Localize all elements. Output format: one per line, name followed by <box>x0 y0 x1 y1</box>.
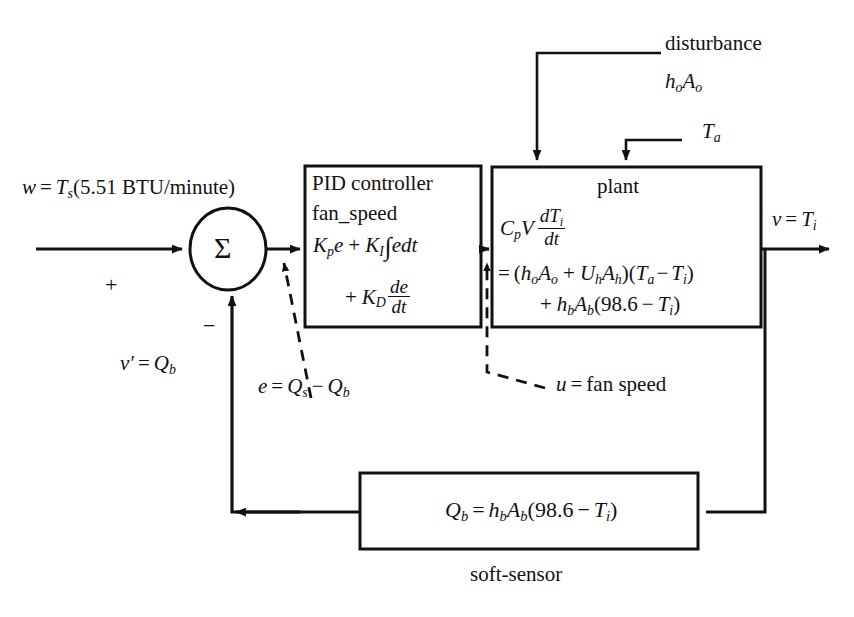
output-equals: = <box>781 207 801 231</box>
pid-kd: K <box>357 285 376 309</box>
plant-minus-2: − <box>638 292 658 316</box>
reference-value: (5.51 BTU/minute) <box>73 175 235 199</box>
pid-dt: dt <box>388 297 410 316</box>
reference-equals: = <box>36 175 56 199</box>
sensor-paren-open: ( <box>528 497 535 522</box>
reference-symbol: T <box>56 175 68 199</box>
ambient-T-sub: a <box>714 130 721 145</box>
pid-controller-title: PID controller <box>312 172 433 196</box>
pid-e-term: e <box>334 233 343 257</box>
pid-ki: K <box>365 233 379 257</box>
plant-Ti-2: T <box>658 292 670 316</box>
plant-Ao: A <box>538 261 551 285</box>
error-Qb-sub: b <box>343 385 350 400</box>
pid-derivative-fraction: de dt <box>388 277 410 317</box>
pid-kp-sub: p <box>327 244 334 259</box>
plant-const: 98.6 <box>601 292 638 316</box>
control-text: fan speed <box>586 372 666 396</box>
plant-ho: h <box>521 261 532 285</box>
control-block-diagram: w=Ts(5.51 BTU/minute) Σ + − PID controll… <box>0 0 854 617</box>
output-T-sub: i <box>813 218 817 233</box>
soft-sensor-equation: Qb=hbAb(98.6−Ti) <box>445 498 617 524</box>
plant-eq-equals: = <box>498 261 510 285</box>
plant-Ta: T <box>636 261 648 285</box>
plant-Ab-sub: b <box>587 303 594 318</box>
output-feedback-tap <box>706 249 765 512</box>
control-signal-annotation: u=fan speed <box>556 373 666 397</box>
ambient-temperature-line <box>626 140 682 160</box>
pid-equation-line-2: +KD de dt <box>345 277 410 317</box>
plant-equation-line-1: CpV dTi dt <box>500 206 565 249</box>
integral-icon: ∫ <box>384 232 392 261</box>
feedback-Q: Q <box>154 351 169 375</box>
sensor-h-sub: b <box>500 508 507 524</box>
output-T: T <box>801 207 813 231</box>
soft-sensor-caption: soft-sensor <box>470 563 562 587</box>
diagram-lines-layer <box>0 0 854 617</box>
plant-plus-2: + <box>540 292 552 316</box>
plant-paren-open-2: ( <box>594 292 601 316</box>
disturbance-symbol-label: hoAo <box>665 70 702 95</box>
plant-dt: dt <box>538 229 566 248</box>
pid-kp: K <box>310 233 327 257</box>
sensor-equals: = <box>468 497 488 522</box>
feedback-v: v′ <box>120 351 134 375</box>
disturbance-label: disturbance <box>665 32 762 56</box>
plant-cp: C <box>500 216 514 240</box>
error-Qs-sub: s <box>302 385 307 400</box>
disturbance-line <box>537 53 661 160</box>
plant-minus-1: − <box>654 261 671 285</box>
plant-Ah-sub: h <box>615 272 622 287</box>
pid-plus-1: + <box>343 233 365 257</box>
pid-equation-line-1: Kpe+KI∫edt <box>310 233 417 262</box>
plant-dTi: dTi <box>538 206 566 229</box>
plant-hb: h <box>552 292 568 316</box>
pid-de: de <box>388 277 410 297</box>
minus-sign-label: − <box>203 313 215 339</box>
output-v: v <box>772 207 781 231</box>
control-u: u <box>556 372 567 396</box>
plant-cp-sub: p <box>514 227 521 242</box>
disturbance-h: h <box>665 69 676 93</box>
error-Qb: Q <box>328 374 343 398</box>
plant-derivative-fraction: dTi dt <box>538 206 566 249</box>
sensor-const: 98.6 <box>535 497 574 522</box>
plant-plus-1: + <box>558 261 580 285</box>
plus-sign-label: + <box>105 272 117 298</box>
plant-paren-mid: )( <box>622 261 636 285</box>
summing-junction-sigma: Σ <box>214 231 231 265</box>
plant-Ah: A <box>602 261 615 285</box>
error-equals: = <box>267 374 287 398</box>
ambient-temperature-label: Ta <box>702 120 721 145</box>
control-equals: = <box>567 372 587 396</box>
plant-Ab: A <box>574 292 587 316</box>
plant-title: plant <box>597 175 639 199</box>
plant-Uh-sub: h <box>595 272 602 287</box>
plant-Ao-sub: o <box>551 272 558 287</box>
error-Qs: Q <box>287 374 302 398</box>
sensor-Q: Q <box>445 497 461 522</box>
feedback-line <box>232 296 360 512</box>
error-e: e <box>258 374 267 398</box>
pid-plus-2: + <box>345 285 357 309</box>
error-signal-annotation: e=Qs−Qb <box>258 375 350 400</box>
pid-kd-sub: D <box>376 295 386 310</box>
feedback-Q-sub: b <box>169 362 176 377</box>
feedback-equals: = <box>134 351 154 375</box>
sensor-minus: − <box>573 497 593 522</box>
disturbance-A: A <box>682 69 695 93</box>
output-label: v=Ti <box>772 208 817 233</box>
plant-paren-close: ) <box>687 261 694 285</box>
reference-input-label: w=Ts(5.51 BTU/minute) <box>22 176 235 201</box>
pid-edt: edt <box>392 233 418 257</box>
sensor-T: T <box>594 497 606 522</box>
sensor-h: h <box>489 497 500 522</box>
plant-equation-line-2: =(hoAo+UhAh)(Ta−Ti) <box>498 262 694 287</box>
plant-paren-close-2: ) <box>673 292 680 316</box>
feedback-signal-label: v′=Qb <box>120 352 176 377</box>
sensor-paren-close: ) <box>610 497 617 522</box>
error-minus: − <box>308 374 328 398</box>
plant-volume: V <box>521 216 534 240</box>
pid-fan-speed-label: fan_speed <box>312 202 397 226</box>
plant-equation-line-3: +hbAb(98.6−Ti) <box>540 293 680 318</box>
